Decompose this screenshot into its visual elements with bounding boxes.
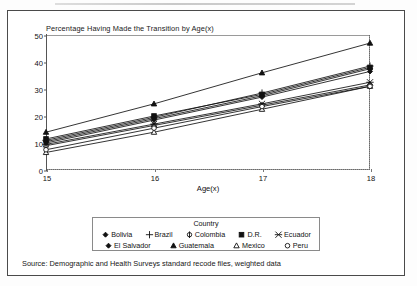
series-line (46, 82, 370, 144)
page-canvas: Percentage Having Made the Transition by… (0, 0, 417, 286)
legend-marker-x-cross (274, 230, 283, 239)
legend-marker-circle-cross (185, 230, 194, 239)
x-tick-label: 18 (367, 174, 375, 183)
legend-marker-plus (145, 230, 154, 239)
figure-frame: Percentage Having Made the Transition by… (7, 10, 405, 276)
legend-row: El SalvadorGuatemalaMexicoPeru (95, 240, 317, 251)
x-axis-title: Age(x) (46, 184, 370, 193)
chart-legend: Country BoliviaBrazilColombiaD.R.Ecuador… (92, 217, 320, 251)
y-tick-label: 20 (35, 113, 43, 122)
legend-item-ecuador: Ecuador (274, 230, 311, 239)
legend-item-peru: Peru (283, 241, 308, 250)
series-line (46, 85, 370, 146)
legend-item-mexico: Mexico (232, 241, 265, 250)
legend-item-label: Colombia (195, 231, 225, 238)
legend-item-colombia: Colombia (185, 230, 225, 239)
legend-marker-diamond-filled (101, 230, 110, 239)
legend-item-brazil: Brazil (145, 230, 173, 239)
legend-row: BoliviaBrazilColombiaD.R.Ecuador (95, 229, 317, 240)
legend-marker-square-filled (237, 230, 246, 239)
legend-item-label: El Salvador (114, 242, 151, 249)
x-tick-label: 16 (151, 174, 159, 183)
legend-item-label: Guatemala (179, 242, 214, 249)
x-tick-label: 15 (43, 174, 51, 183)
legend-marker-diamond-filled (104, 241, 113, 250)
series-line (46, 43, 370, 132)
legend-item-d-r: D.R. (237, 230, 261, 239)
legend-marker-triangle-filled (169, 241, 178, 250)
legend-item-el-salvador: El Salvador (104, 241, 151, 250)
x-tick-mark (371, 169, 372, 172)
source-note: Source: Demographic and Health Surveys s… (22, 259, 281, 268)
series-peru (44, 84, 373, 152)
y-tick-label: 30 (35, 86, 43, 95)
y-tick-label: 40 (35, 59, 43, 68)
scan-artifact-line (55, 3, 355, 5)
legend-item-label: Ecuador (284, 231, 311, 238)
series-line (46, 86, 370, 149)
legend-item-label: Mexico (242, 242, 265, 249)
chart-title: Percentage Having Made the Transition by… (46, 24, 214, 33)
legend-item-label: Brazil (155, 231, 173, 238)
legend-entries: BoliviaBrazilColombiaD.R.EcuadorEl Salva… (95, 229, 317, 251)
chart-container: Percentage Having Made the Transition by… (22, 24, 382, 209)
legend-item-label: D.R. (247, 231, 261, 238)
series-plot (46, 35, 370, 170)
series-mexico (43, 84, 372, 155)
legend-item-bolivia: Bolivia (101, 230, 132, 239)
y-tick-label: 10 (35, 140, 43, 149)
legend-item-guatemala: Guatemala (169, 241, 214, 250)
legend-marker-circle-open (283, 241, 292, 250)
legend-item-label: Bolivia (111, 231, 132, 238)
series-guatemala (43, 40, 372, 134)
legend-item-label: Peru (293, 242, 308, 249)
series-line (46, 66, 370, 140)
legend-marker-triangle-open (232, 241, 241, 250)
legend-title: Country (93, 219, 319, 228)
x-tick-label: 17 (259, 174, 267, 183)
series-d-r (44, 65, 373, 141)
y-tick-label: 50 (35, 32, 43, 41)
